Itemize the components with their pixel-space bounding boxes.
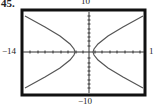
graph-window [0,0,155,107]
